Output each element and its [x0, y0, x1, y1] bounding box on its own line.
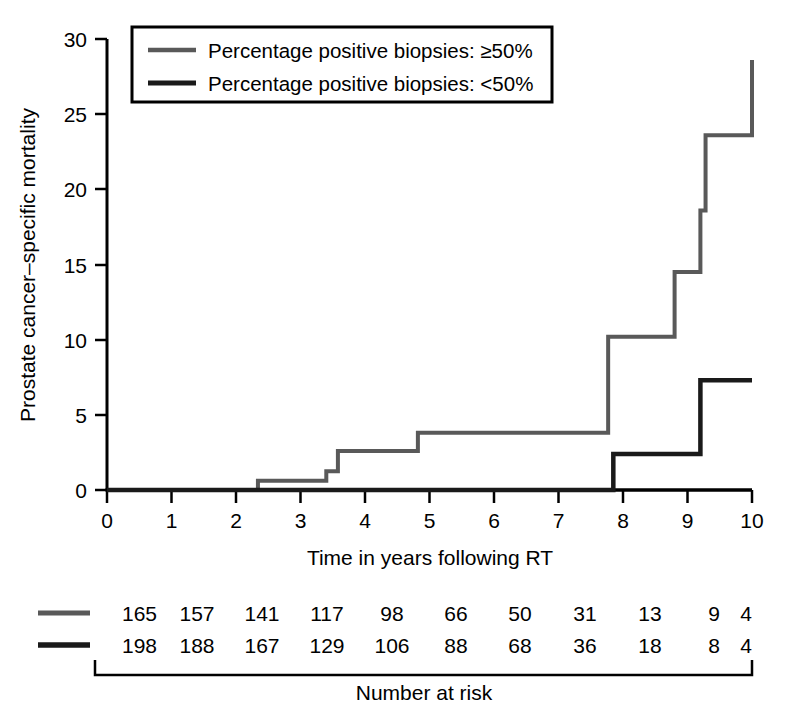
risk-cell: 8 — [708, 634, 720, 657]
x-axis-title: Time in years following RT — [307, 546, 553, 569]
risk-cell: 4 — [740, 602, 752, 625]
legend-label-low: Percentage positive biopsies: <50% — [208, 72, 533, 95]
risk-cell: 129 — [309, 634, 344, 657]
x-tick-label: 5 — [424, 509, 436, 532]
risk-table: 165157141117986650311394 198188167129106… — [38, 602, 752, 704]
risk-cell: 167 — [244, 634, 279, 657]
risk-cell: 9 — [708, 602, 720, 625]
risk-cell: 198 — [122, 634, 157, 657]
risk-cell: 165 — [122, 602, 157, 625]
x-tick-label: 8 — [617, 509, 629, 532]
x-tick-label: 1 — [166, 509, 178, 532]
y-tick-label: 10 — [64, 329, 87, 352]
x-axis-tick-labels: 0 1 2 3 4 5 6 7 8 9 10 — [101, 509, 764, 532]
x-tick-label: 7 — [553, 509, 565, 532]
risk-cell: 36 — [573, 634, 596, 657]
step-curve — [107, 380, 752, 490]
y-axis-tick-labels: 30 25 20 15 10 5 0 — [64, 28, 87, 502]
step-curves-group — [107, 60, 752, 490]
risk-cell: 50 — [508, 602, 531, 625]
risk-cell: 31 — [573, 602, 596, 625]
chart-canvas: 30 25 20 15 10 5 0 Prostate cancer–speci… — [0, 0, 796, 706]
survival-curve-figure: 30 25 20 15 10 5 0 Prostate cancer–speci… — [0, 0, 796, 706]
risk-cell: 157 — [179, 602, 214, 625]
risk-cell: 66 — [444, 602, 467, 625]
y-axis-title: Prostate cancer–specific mortality — [16, 108, 39, 422]
risk-cell: 68 — [508, 634, 531, 657]
risk-cell: 13 — [638, 602, 661, 625]
risk-cell: 117 — [310, 602, 343, 625]
legend: Percentage positive biopsies: ≥50% Perce… — [132, 27, 552, 102]
risk-bracket — [95, 660, 752, 675]
risk-cell: 141 — [244, 602, 279, 625]
risk-table-row: 165157141117986650311394 — [122, 602, 752, 625]
risk-cell: 188 — [179, 634, 214, 657]
x-tick-label: 6 — [488, 509, 500, 532]
y-axis-ticks — [95, 39, 107, 490]
y-tick-label: 30 — [64, 28, 87, 51]
y-tick-label: 20 — [64, 178, 87, 201]
y-tick-label: 25 — [64, 103, 87, 126]
x-tick-label: 2 — [230, 509, 242, 532]
legend-label-high: Percentage positive biopsies: ≥50% — [208, 39, 533, 62]
risk-cell: 18 — [638, 634, 661, 657]
risk-cell: 106 — [374, 634, 409, 657]
step-curve — [107, 60, 752, 490]
risk-cell: 88 — [444, 634, 467, 657]
risk-table-title: Number at risk — [356, 681, 493, 704]
y-tick-label: 0 — [75, 479, 87, 502]
risk-cell: 98 — [380, 602, 403, 625]
risk-table-row: 1981881671291068868361884 — [122, 634, 752, 657]
x-tick-label: 0 — [101, 509, 113, 532]
x-tick-label: 4 — [359, 509, 371, 532]
y-tick-label: 5 — [75, 404, 87, 427]
risk-cell: 4 — [740, 634, 752, 657]
y-tick-label: 15 — [64, 254, 87, 277]
x-tick-label: 10 — [740, 509, 763, 532]
x-tick-label: 9 — [682, 509, 694, 532]
x-tick-label: 3 — [295, 509, 307, 532]
